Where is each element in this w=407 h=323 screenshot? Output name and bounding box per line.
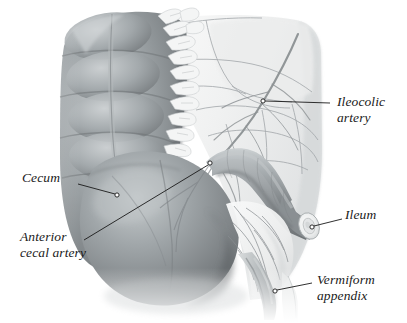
label-anterior-cecal-artery: Anteriorcecal artery [20,229,86,261]
label-vermiform-appendix: Vermiformappendix [317,272,375,304]
label-cecum-line1: Cecum [22,170,60,186]
label-vermiform-appendix-line1: Vermiform [317,272,375,288]
label-anterior-cecal-artery-line2: cecal artery [20,245,86,261]
illustration-canvas: IleocolicarteryCecumAnteriorcecal artery… [0,0,407,323]
leader-dot-ileum [310,225,314,229]
label-vermiform-appendix-line2: appendix [317,288,375,304]
left-fade [40,0,80,323]
label-cecum: Cecum [22,170,60,186]
label-ileocolic-artery-line1: Ileocolic [337,94,385,110]
label-ileum: Ileum [345,207,376,223]
leader-dot-cecum [115,193,119,197]
leader-dot-vermiform-appendix [273,289,277,293]
label-ileum-line1: Ileum [345,207,376,223]
cecum-shadow [104,278,248,314]
label-anterior-cecal-artery-line1: Anterior [20,229,86,245]
leader-dot-ileocolic-artery [261,99,265,103]
label-ileocolic-artery-line2: artery [337,110,385,126]
label-ileocolic-artery: Ileocolicartery [337,94,385,126]
leader-dot-anterior-cecal-artery [208,161,212,165]
